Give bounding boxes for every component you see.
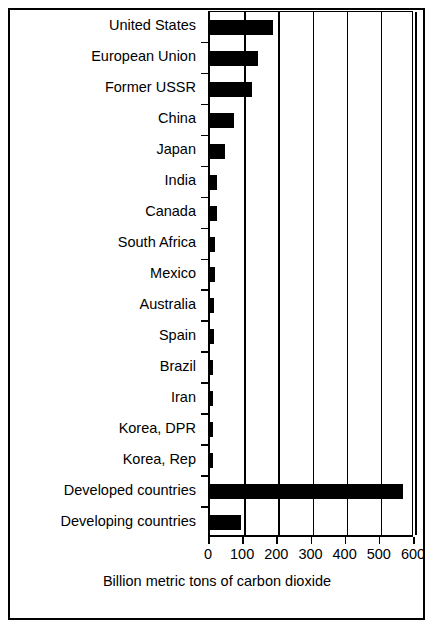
bar [210, 82, 252, 97]
y-axis-label: Developed countries [64, 483, 196, 498]
x-tick [311, 537, 313, 544]
bar-row [210, 43, 412, 74]
bar [210, 484, 403, 499]
y-axis-label: Mexico [150, 266, 196, 281]
bar-row [210, 507, 412, 538]
y-axis-label: Spain [159, 328, 196, 343]
y-axis-label: South Africa [118, 235, 196, 250]
bar [210, 144, 225, 159]
bar-row [210, 167, 412, 198]
x-tick [413, 537, 415, 544]
y-tick [201, 259, 208, 261]
y-axis-labels: United StatesEuropean UnionFormer USSRCh… [14, 11, 204, 537]
y-axis-label: Australia [140, 297, 196, 312]
gridline-600 [415, 12, 417, 535]
y-tick [201, 351, 208, 353]
bar [210, 422, 213, 437]
bar-row [210, 352, 412, 383]
bar-row [210, 105, 412, 136]
bar [210, 360, 213, 375]
x-tick-label: 600 [401, 547, 425, 562]
y-axis-label: Former USSR [105, 80, 196, 95]
y-axis-label: China [158, 111, 196, 126]
x-axis-title: Billion metric tons of carbon dioxide [0, 574, 434, 589]
y-axis-label: United States [109, 18, 196, 33]
bar [210, 237, 215, 252]
bar-row [210, 198, 412, 229]
x-tick [345, 537, 347, 544]
bar [210, 329, 214, 344]
bar-row [210, 414, 412, 445]
x-tick [242, 537, 244, 544]
y-tick [201, 73, 208, 75]
x-tick-label: 300 [298, 547, 322, 562]
y-tick [201, 444, 208, 446]
y-tick [201, 506, 208, 508]
x-tick-label: 200 [264, 547, 288, 562]
x-tick [276, 537, 278, 544]
y-tick [201, 135, 208, 137]
bar-row [210, 260, 412, 291]
bar-row [210, 229, 412, 260]
bar-row [210, 290, 412, 321]
y-axis-label: India [165, 173, 196, 188]
y-axis-label: Korea, Rep [123, 452, 196, 467]
bar [210, 20, 273, 35]
y-tick [201, 413, 208, 415]
bar [210, 113, 234, 128]
bar-row [210, 445, 412, 476]
y-axis-label: Korea, DPR [119, 421, 196, 436]
y-tick [201, 197, 208, 199]
y-tick [201, 320, 208, 322]
bar-series [210, 12, 412, 535]
bar [210, 391, 213, 406]
bar [210, 267, 215, 282]
plot-area [208, 11, 413, 537]
bar [210, 515, 241, 530]
x-tick-label: 400 [333, 547, 357, 562]
bar [210, 298, 214, 313]
y-axis-label: European Union [91, 49, 196, 64]
bar [210, 51, 258, 66]
bar-row [210, 321, 412, 352]
bar-row [210, 383, 412, 414]
x-tick-label: 500 [367, 547, 391, 562]
x-tick [379, 537, 381, 544]
y-tick [201, 42, 208, 44]
bar [210, 175, 217, 190]
x-tick-label: 0 [204, 547, 212, 562]
x-tick [208, 537, 210, 544]
y-tick [201, 289, 208, 291]
bar-row [210, 12, 412, 43]
y-tick [201, 104, 208, 106]
bar-row [210, 74, 412, 105]
y-axis-label: Iran [171, 390, 196, 405]
y-tick [201, 228, 208, 230]
y-axis-label: Developing countries [61, 514, 196, 529]
y-axis-label: Japan [156, 142, 196, 157]
bar [210, 453, 213, 468]
y-tick [201, 166, 208, 168]
x-axis-tick-labels: 0100200300400500600 [0, 547, 434, 567]
y-axis-label: Canada [145, 204, 196, 219]
bar-row [210, 136, 412, 167]
chart-figure: United StatesEuropean UnionFormer USSRCh… [0, 0, 434, 629]
bar [210, 206, 217, 221]
x-tick-label: 100 [230, 547, 254, 562]
y-tick [201, 382, 208, 384]
bar-row [210, 476, 412, 507]
y-tick [201, 475, 208, 477]
y-axis-label: Brazil [160, 359, 196, 374]
